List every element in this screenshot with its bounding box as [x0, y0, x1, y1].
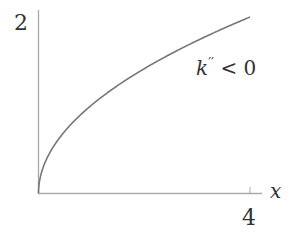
annotation-k: k	[196, 56, 208, 80]
annotation-rest: < 0	[214, 56, 256, 80]
x-axis-label: x	[270, 179, 281, 203]
concavity-annotation: k′′ < 0	[196, 55, 256, 80]
x-tick-label: 4	[242, 205, 256, 230]
y-tick-label: 2	[14, 10, 28, 35]
sqrt-curve	[39, 17, 251, 194]
chart: 2 4 x k′′ < 0	[0, 0, 292, 235]
